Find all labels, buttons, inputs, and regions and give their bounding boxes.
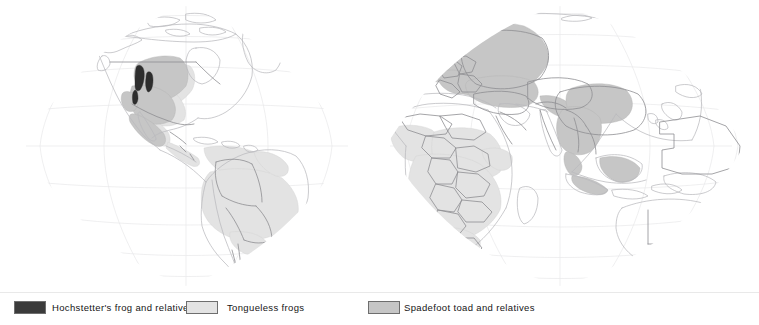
distribution-map-figure: Hochstetter's frog and relatives Tonguel…: [0, 0, 759, 325]
legend-item-tongueless-frogs: Tongueless frogs: [186, 301, 304, 314]
legend-item-hochstetters-frog: Hochstetter's frog and relatives: [14, 301, 194, 314]
legend-swatch-hochstetters-frog: [14, 301, 46, 314]
legend-label-hochstetters-frog: Hochstetter's frog and relatives: [52, 302, 194, 313]
legend-label-spadefoot-toad: Spadefoot toad and relatives: [404, 302, 535, 313]
world-map: [0, 0, 759, 292]
legend-swatch-spadefoot-toad: [368, 301, 400, 314]
legend-item-spadefoot-toad: Spadefoot toad and relatives: [368, 301, 535, 314]
legend-swatch-tongueless-frogs: [186, 301, 218, 314]
map-legend: Hochstetter's frog and relatives Tonguel…: [0, 292, 759, 325]
legend-label-tongueless-frogs: Tongueless frogs: [227, 302, 304, 313]
legend-divider: [0, 292, 759, 293]
